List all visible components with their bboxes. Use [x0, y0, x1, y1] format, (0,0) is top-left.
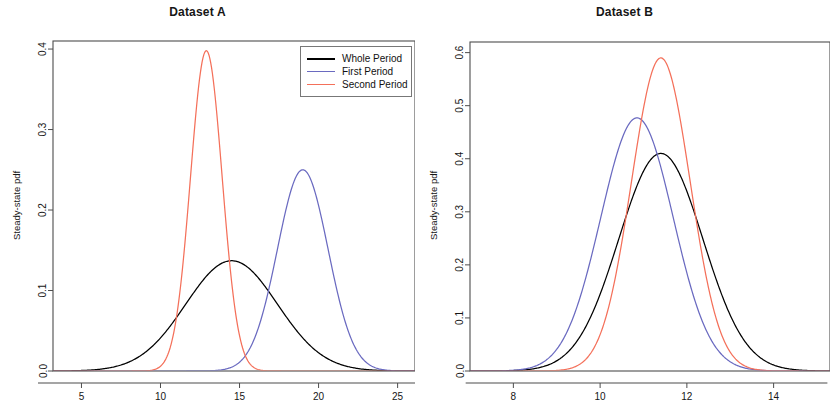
- y-tick-label: 0.2: [455, 257, 466, 271]
- legend-color-swatch: [307, 71, 335, 72]
- legend-dataset-a: Whole PeriodFirst PeriodSecond Period: [300, 46, 412, 97]
- chart-panel-dataset-a: Dataset A Steady-state pdf 0.00.10.20.30…: [0, 0, 415, 401]
- chart-panel-dataset-b: Dataset B Steady-state pdf 0.00.10.20.30…: [415, 0, 830, 401]
- y-tick-label: 0.5: [455, 98, 466, 112]
- y-tick-label: 0.3: [455, 204, 466, 218]
- x-tick-label: 5: [79, 391, 85, 401]
- x-tick-label: 14: [768, 391, 780, 401]
- series-line: [470, 118, 830, 371]
- legend-color-swatch: [307, 58, 335, 60]
- series-line: [53, 261, 415, 371]
- y-tick-label: 0.4: [37, 42, 48, 56]
- x-tick-label: 15: [234, 391, 246, 401]
- y-tick-label: 0.2: [38, 203, 49, 217]
- x-tick-label: 12: [681, 391, 693, 401]
- y-tick-label: 0.3: [38, 122, 49, 136]
- plot-area-dataset-b: 0.00.10.20.30.40.50.68101214: [415, 0, 830, 401]
- y-tick-label: 0.1: [38, 283, 49, 297]
- series-line: [470, 58, 830, 371]
- x-tick-label: 25: [392, 391, 404, 401]
- x-tick-label: 8: [511, 391, 517, 401]
- legend-item: Whole Period: [307, 52, 404, 65]
- y-tick-label: 0.0: [455, 364, 466, 378]
- series-line: [470, 153, 830, 371]
- legend-item: Second Period: [307, 78, 404, 91]
- y-tick-label: 0.6: [455, 45, 466, 59]
- plot-svg-dataset-b: 0.00.10.20.30.40.50.68101214: [415, 0, 830, 401]
- x-tick-label: 10: [595, 391, 607, 401]
- x-tick-label: 20: [313, 391, 325, 401]
- series-line: [53, 51, 415, 371]
- legend-item-label: Whole Period: [342, 52, 402, 65]
- series-line: [53, 170, 415, 371]
- legend-item-label: Second Period: [342, 78, 408, 91]
- y-tick-label: 0.4: [455, 151, 466, 165]
- legend-item: First Period: [307, 65, 404, 78]
- figure-panels: Dataset A Steady-state pdf 0.00.10.20.30…: [0, 0, 830, 401]
- y-tick-label: 0.1: [455, 311, 466, 325]
- legend-item-label: First Period: [342, 65, 393, 78]
- legend-color-swatch: [307, 84, 335, 85]
- x-tick-label: 10: [155, 391, 167, 401]
- y-tick-label: 0.0: [38, 364, 49, 378]
